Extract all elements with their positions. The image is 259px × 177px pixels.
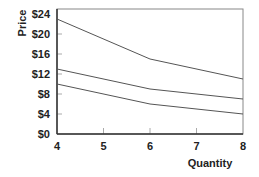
x-tick-label: 8	[240, 140, 246, 152]
y-axis-label: Price	[16, 10, 28, 37]
x-tick-label: 7	[193, 140, 199, 152]
x-tick-label: 4	[54, 140, 61, 152]
x-axis-label: Quantity	[188, 157, 233, 169]
x-tick-label: 5	[100, 140, 106, 152]
y-tick-label: $20	[32, 28, 50, 40]
x-axis-ticks: 45678	[54, 128, 246, 152]
data-series	[57, 19, 243, 114]
y-tick-label: $16	[32, 48, 50, 60]
y-tick-label: $12	[32, 68, 50, 80]
line-chart: $0$4$8$12$16$20$24 45678 Price Quantity	[0, 0, 259, 177]
plot-frame	[57, 9, 243, 134]
y-tick-label: $4	[38, 108, 51, 120]
series-line-upper	[57, 19, 243, 79]
x-tick-label: 6	[147, 140, 153, 152]
y-tick-label: $8	[38, 88, 50, 100]
y-tick-label: $24	[32, 8, 51, 20]
y-tick-label: $0	[38, 128, 50, 140]
